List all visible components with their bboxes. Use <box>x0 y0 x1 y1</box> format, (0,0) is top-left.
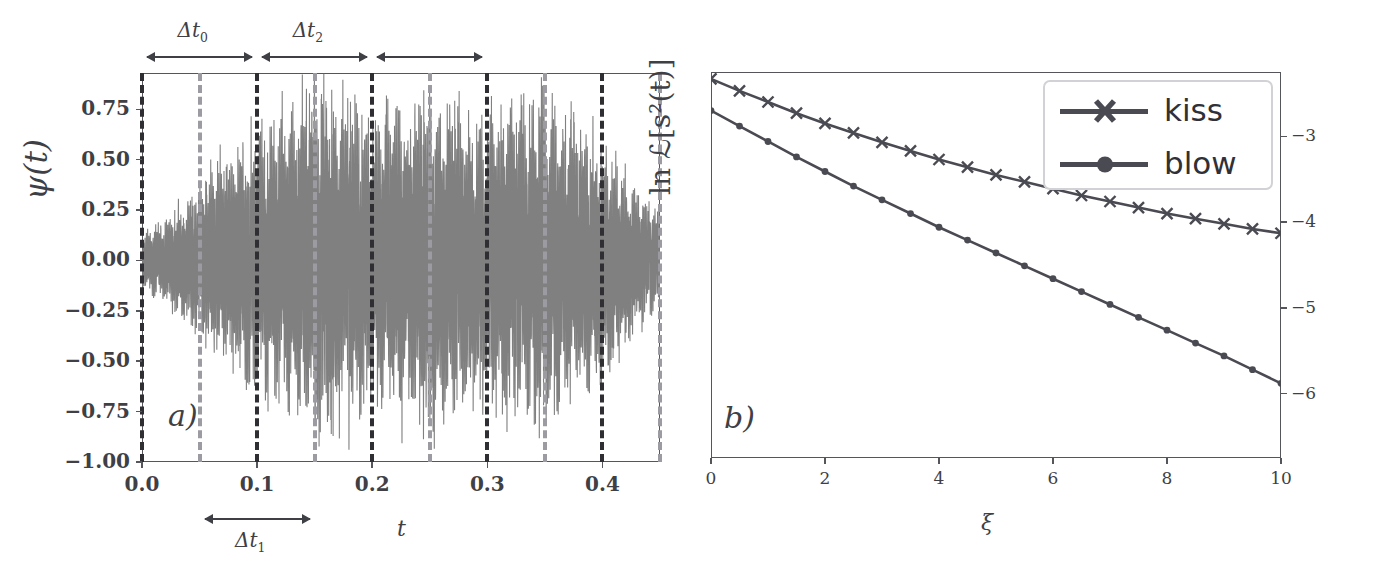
panel-a-y-tick-mark <box>136 260 142 262</box>
panel-b-x-tick-label: 0 <box>691 468 731 488</box>
panel-a-x-tick-mark <box>487 462 489 468</box>
panel-b-x-tick-label: 6 <box>1033 468 1073 488</box>
panel-a-dashed-line <box>255 73 259 462</box>
panel-a-y-tick-label: −0.25 <box>65 298 130 322</box>
panel-a-x-tick-mark <box>141 462 143 468</box>
data-point-dot-marker <box>993 250 1000 257</box>
panel-b-x-tick-label: 8 <box>1147 468 1187 488</box>
legend-label-blow: blow <box>1164 148 1237 179</box>
data-point-dot-marker <box>1107 301 1114 308</box>
panel-a-x-tick-mark <box>602 462 604 468</box>
data-point-dot-marker <box>1050 275 1057 282</box>
data-point-dot-marker <box>765 138 772 145</box>
panel-b-y-tick-label: −4 <box>1291 211 1316 231</box>
panel-b-y-tick-mark <box>1281 136 1287 138</box>
panel-a-y-tick-mark <box>136 109 142 111</box>
data-point-dot-marker <box>1021 262 1028 269</box>
interval-arrow <box>377 56 482 58</box>
panel-a-y-tick-mark <box>136 360 142 362</box>
panel-a-x-axis-title: t <box>397 516 406 541</box>
panel-b-x-tick-mark <box>1280 458 1282 464</box>
panel-b-letter: b) <box>724 400 755 435</box>
data-point-dot-marker <box>793 154 800 161</box>
panel-a-y-tick-label: −0.75 <box>65 399 130 423</box>
panel-b-x-tick-mark <box>824 458 826 464</box>
legend-item-kiss[interactable]: kiss <box>1045 83 1271 138</box>
panel-b-x-tick-label: 10 <box>1261 468 1301 488</box>
panel-a-dashed-line <box>485 73 489 462</box>
data-point-dot-marker <box>879 196 886 203</box>
figure-root: 0.750.500.250.00−0.25−0.50−0.75−1.00 0.0… <box>0 0 1389 562</box>
panel-a-y-tick-label: 0.75 <box>81 96 130 120</box>
panel-b-y-tick-label: −6 <box>1291 383 1316 403</box>
panel-b-y-tick-mark <box>1281 221 1287 223</box>
panel-a-dashed-line <box>140 73 144 462</box>
panel-a-x-tick-label: 0.1 <box>233 472 281 496</box>
panel-b-y-axis-title: ln ℒ[s²(t)] <box>644 59 677 195</box>
panel-a-y-tick-label: 0.50 <box>81 147 130 171</box>
interval-arrow-label: Δt2 <box>293 18 323 45</box>
psi-signal-waveform <box>142 73 660 462</box>
legend-item-blow[interactable]: blow <box>1045 136 1271 191</box>
panel-b-y-tick-mark <box>1281 393 1287 395</box>
data-point-dot-marker <box>736 123 743 130</box>
interval-arrow <box>262 56 367 58</box>
data-point-dot-marker <box>1249 366 1256 373</box>
panel-b-x-tick-mark <box>938 458 940 464</box>
panel-b-x-axis-title: ξ <box>981 510 993 535</box>
panel-a-dashed-line <box>428 73 432 462</box>
x-marker-icon <box>1058 96 1150 126</box>
panel-b-x-tick-label: 4 <box>919 468 959 488</box>
waveform-path <box>142 74 660 450</box>
panel-b-x-tick-label: 2 <box>805 468 845 488</box>
panel-a-dashed-line <box>313 73 317 462</box>
panel-b-legend[interactable]: kiss blow <box>1043 80 1273 190</box>
data-point-dot-marker <box>1164 327 1171 334</box>
data-point-dot-marker <box>1078 288 1085 295</box>
panel-a-dashed-line <box>543 73 547 462</box>
panel-b-x-tick-mark <box>1166 458 1168 464</box>
panel-a-x-tick-label: 0.4 <box>578 472 626 496</box>
interval-arrow <box>205 518 310 520</box>
data-point-dot-marker <box>964 237 971 244</box>
panel-a-dashed-line <box>370 73 374 462</box>
panel-a-y-tick-mark <box>136 310 142 312</box>
panel-b-y-tick-label: −5 <box>1291 297 1316 317</box>
panel-a-y-tick-label: −1.00 <box>65 449 130 473</box>
panel-b-x-tick-mark <box>1052 458 1054 464</box>
data-point-dot-marker <box>936 224 943 231</box>
panel-a-letter: a) <box>168 398 198 433</box>
panel-a-dashed-line <box>600 73 604 462</box>
panel-a-y-tick-mark <box>136 411 142 413</box>
data-point-dot-marker <box>822 168 829 175</box>
data-point-x-marker <box>763 97 774 108</box>
interval-arrow <box>147 56 252 58</box>
data-point-dot-marker <box>1221 353 1228 360</box>
data-point-dot-marker <box>850 183 857 190</box>
data-point-x-marker <box>791 108 802 119</box>
panel-a-y-tick-label: −0.50 <box>65 348 130 372</box>
data-point-x-marker <box>734 85 745 96</box>
panel-a-y-tick-label: 0.00 <box>81 247 130 271</box>
panel-a-x-tick-label: 0.2 <box>348 472 396 496</box>
panel-a-dashed-line <box>198 73 202 462</box>
panel-a-y-tick-mark <box>136 159 142 161</box>
data-point-dot-marker <box>1192 340 1199 347</box>
waveform-svg <box>142 73 660 462</box>
panel-a-x-tick-mark <box>256 462 258 468</box>
panel-a-y-axis-title: ψ(t) <box>18 139 54 200</box>
data-point-dot-marker <box>907 210 914 217</box>
panel-a-y-tick-label: 0.25 <box>81 197 130 221</box>
interval-arrow-label: Δt0 <box>178 18 208 45</box>
panel-b-y-tick-label: −3 <box>1291 125 1316 145</box>
dot-marker-icon <box>1058 149 1150 179</box>
interval-arrow-label: Δt1 <box>235 528 265 555</box>
legend-label-kiss: kiss <box>1164 95 1223 126</box>
panel-a: 0.750.500.250.00−0.25−0.50−0.75−1.00 0.0… <box>0 0 700 562</box>
panel-a-x-tick-label: 0.0 <box>118 472 166 496</box>
panel-b-x-tick-mark <box>710 458 712 464</box>
panel-a-x-tick-mark <box>371 462 373 468</box>
panel-a-y-tick-mark <box>136 209 142 211</box>
panel-a-x-tick-label: 0.3 <box>463 472 511 496</box>
data-point-dot-marker <box>1135 314 1142 321</box>
